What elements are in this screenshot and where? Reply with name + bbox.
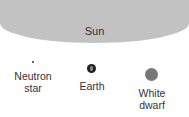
white-dwarf-dot bbox=[145, 68, 158, 81]
earth-label: Earth bbox=[71, 80, 113, 92]
white-dwarf-label: White dwarf bbox=[130, 87, 174, 111]
neutron-star-dot bbox=[32, 61, 34, 63]
neutron-star-label: Neutron star bbox=[8, 70, 58, 94]
sun-label: Sun bbox=[0, 25, 189, 37]
earth-continent-mark bbox=[90, 66, 93, 71]
sun-arc: Sun bbox=[0, 0, 189, 43]
earth-dot bbox=[87, 64, 96, 73]
